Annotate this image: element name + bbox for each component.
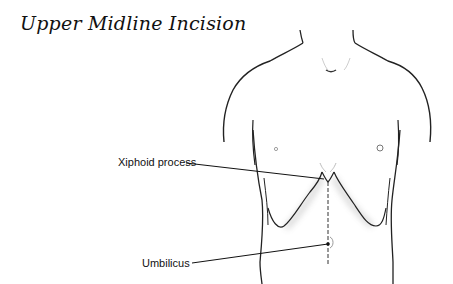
umbilicus-shape xyxy=(330,237,333,248)
xiphoid-process-label: Xiphoid process xyxy=(118,156,196,168)
xiphoid-leader-line xyxy=(186,163,324,179)
right-nipple xyxy=(377,145,383,151)
neck-left-outline xyxy=(300,30,303,43)
left-nipple xyxy=(274,147,277,150)
umbilicus-label: Umbilicus xyxy=(142,257,190,269)
sternal-notch xyxy=(326,70,336,72)
left-flank-outline xyxy=(253,130,263,284)
left-shoulder-outline xyxy=(223,43,303,142)
neck-right-outline xyxy=(353,30,355,43)
xiphoid-process-shape xyxy=(322,172,334,182)
torso-illustration xyxy=(0,0,453,284)
rib-shading xyxy=(286,178,372,228)
right-shoulder-outline xyxy=(355,43,431,142)
